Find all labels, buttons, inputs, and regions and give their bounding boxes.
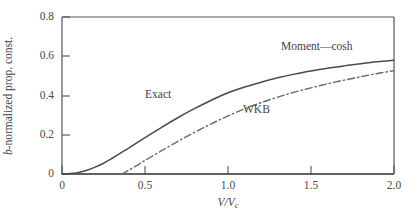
y-axis-ticks [62, 17, 70, 174]
y-tick-label-0.8: 0.8 [14, 11, 54, 23]
annotation-moment-cosh: Moment—cosh [281, 41, 353, 53]
y-axis-title: b-normalized prop. const. [2, 37, 14, 155]
x-axis-title-subscript: c [235, 201, 239, 210]
annotation-wkb: WKB [243, 104, 270, 116]
data-series-group [62, 60, 394, 174]
x-tick-label-1.0: 1.0 [221, 180, 235, 192]
x-axis-ticks [62, 166, 394, 174]
x-axis-title: V/Vc [218, 196, 239, 210]
figure-chart-normalized-prop-const: 0.8 0.6 0.4 0.2 0 0 0.5 1.0 1.5 2.0 V/Vc… [0, 0, 418, 217]
y-tick-label-0.6: 0.6 [14, 50, 54, 62]
x-tick-label-0.5: 0.5 [138, 180, 152, 192]
x-axis-title-main: V/V [218, 196, 235, 208]
y-axis-title-rest: -normalized prop. const. [2, 37, 14, 149]
y-tick-label-0.2: 0.2 [14, 129, 54, 141]
y-axis-title-italic-b: b [2, 149, 14, 155]
annotation-exact: Exact [145, 89, 171, 101]
y-tick-label-0.4: 0.4 [14, 90, 54, 102]
x-tick-label-0: 0 [59, 180, 65, 192]
y-tick-label-0: 0 [14, 168, 54, 180]
x-tick-label-1.5: 1.5 [304, 180, 318, 192]
series-exact-curve [62, 60, 394, 174]
series-wkb-curve [122, 71, 394, 174]
x-tick-label-2.0: 2.0 [387, 180, 401, 192]
